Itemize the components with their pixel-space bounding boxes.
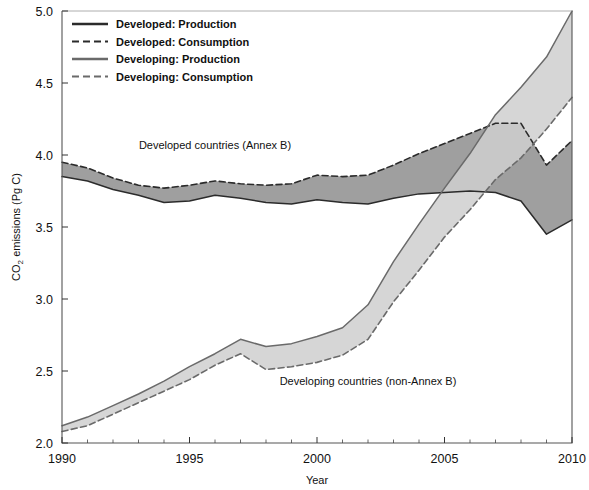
x-tick-label: 2000 (303, 452, 331, 466)
y-tick-label: 3.0 (36, 293, 53, 307)
chart-annotation: Developed countries (Annex B) (139, 139, 291, 151)
x-tick-label: 2010 (558, 452, 586, 466)
co2-emissions-chart: 2.02.53.03.54.04.55.01990199520002005201… (0, 0, 589, 490)
y-tick-label: 2.0 (36, 437, 53, 451)
y-tick-label: 4.0 (36, 149, 53, 163)
legend-label: Developed: Consumption (116, 36, 250, 48)
x-tick-label: 1990 (48, 452, 76, 466)
legend-label: Developing: Consumption (116, 71, 253, 83)
x-tick-label: 1995 (176, 452, 204, 466)
x-tick-label: 2005 (431, 452, 459, 466)
y-tick-label: 4.5 (36, 77, 53, 91)
y-tick-label: 3.5 (36, 221, 53, 235)
legend-label: Developing: Production (116, 53, 240, 65)
chart-annotation: Developing countries (non-Annex B) (280, 375, 457, 387)
x-axis-title: Year (306, 474, 329, 486)
y-tick-label: 5.0 (36, 5, 53, 19)
chart-container: 2.02.53.03.54.04.55.01990199520002005201… (0, 0, 589, 490)
y-tick-label: 2.5 (36, 365, 53, 379)
legend-label: Developed: Production (116, 18, 237, 30)
